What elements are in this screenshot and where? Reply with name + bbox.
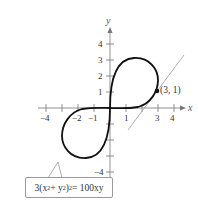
x-tick-label: −1 (88, 113, 98, 123)
equation-post: = 100xy (72, 183, 103, 193)
y-tick-label: 1 (98, 87, 103, 97)
point-label: (3, 1) (160, 85, 181, 95)
y-axis-label: y (105, 15, 111, 26)
point-3-1-marker (155, 89, 160, 94)
equation-pre: 3(x (35, 183, 48, 193)
lemniscate-graph: −4 −2 −1 1 3 4 4 3 2 1 −4 x y (0, 0, 198, 204)
x-tick-label: 4 (170, 113, 175, 123)
x-axis-label: x (187, 102, 193, 113)
equation-callout: 3(x2 + y2)2 = 100xy (25, 177, 113, 198)
x-tick-label: 1 (124, 113, 129, 123)
x-tick-label: −4 (40, 113, 50, 123)
y-axis-arrow-icon (108, 27, 113, 33)
y-tick-label: 2 (98, 71, 103, 81)
y-tick-label: −4 (94, 167, 104, 177)
y-tick-label: 4 (98, 39, 103, 49)
x-axis-arrow-icon (180, 106, 186, 111)
x-tick-label: −2 (72, 113, 82, 123)
equation-mid: + y (50, 183, 62, 193)
y-tick-label: 3 (98, 55, 103, 65)
callout-leader (48, 162, 62, 178)
x-tick-label: 3 (155, 113, 160, 123)
